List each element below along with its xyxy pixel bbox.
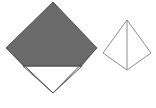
figure-canvas (0, 0, 156, 108)
geometry-figure-svg (0, 0, 156, 108)
